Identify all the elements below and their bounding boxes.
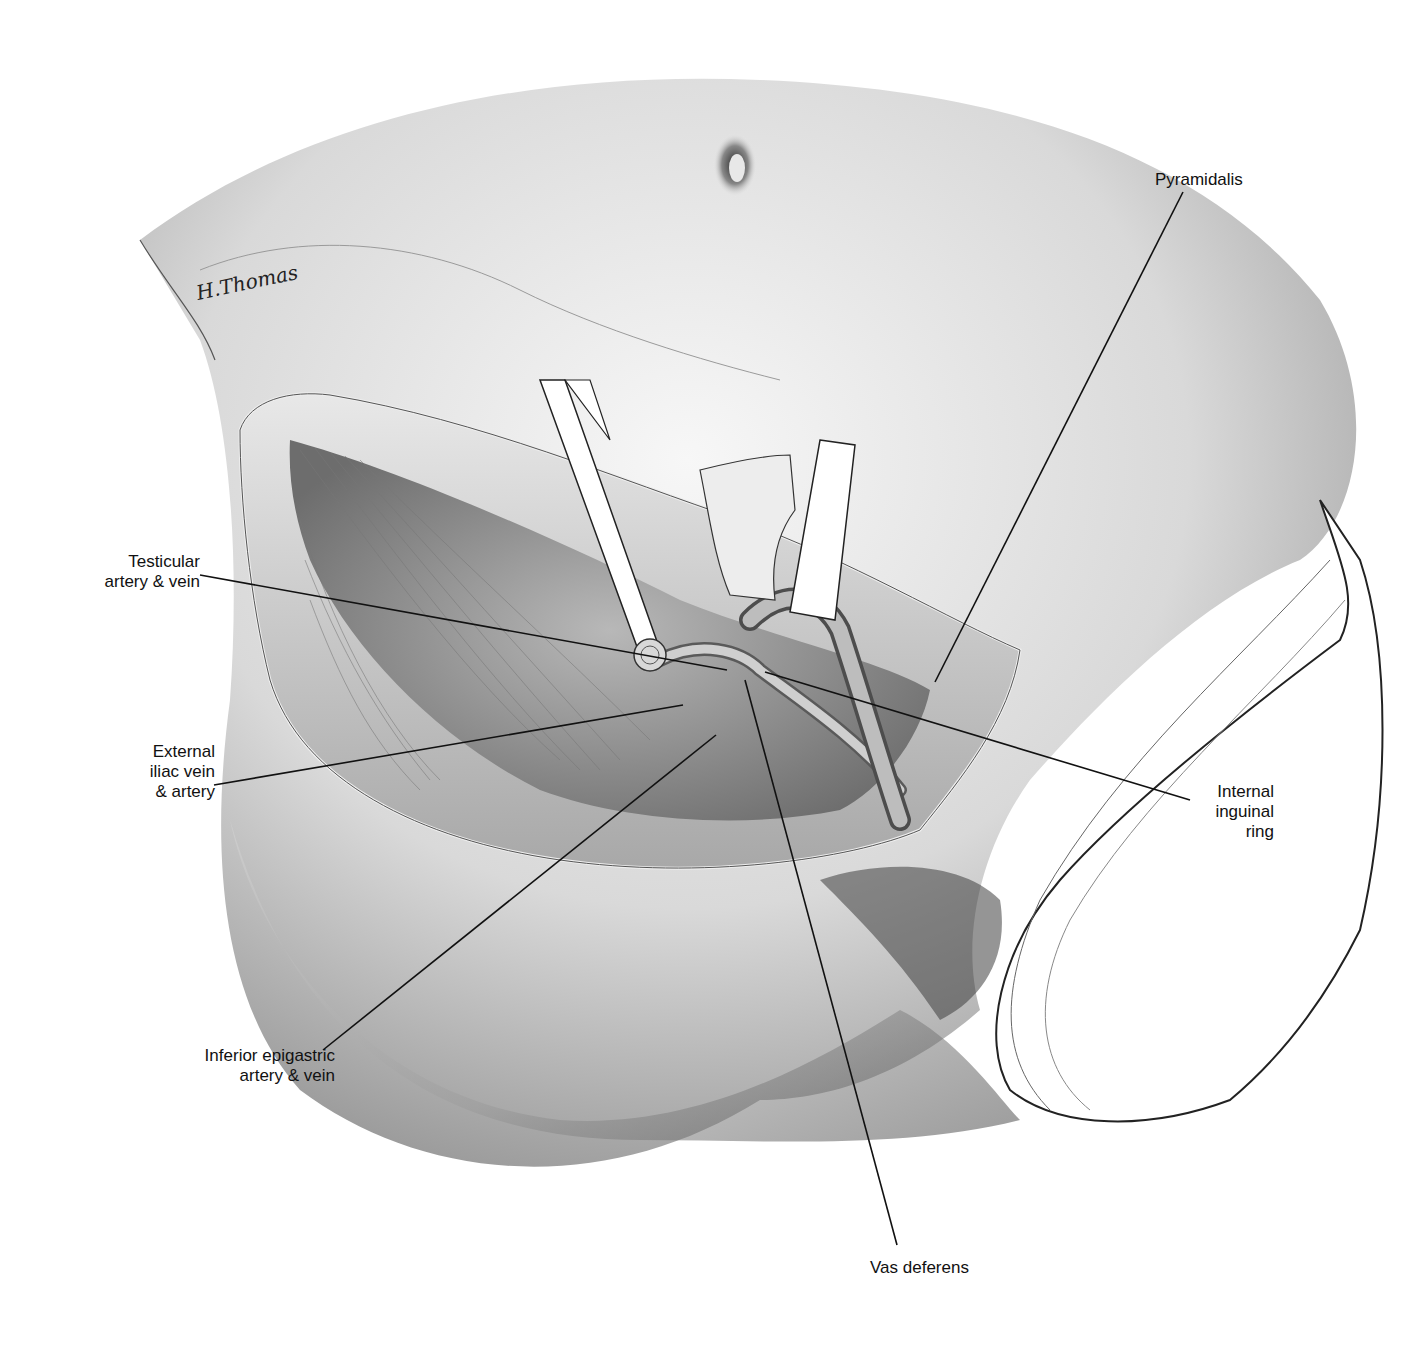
label-pyramidalis: Pyramidalis [1155, 170, 1275, 190]
retractor-ring [634, 639, 666, 671]
surgical-illustration: H.Thomas Testicular artery & vein Extern… [0, 0, 1420, 1350]
label-vas-deferens: Vas deferens [870, 1258, 1000, 1278]
label-testicular-artery-vein: Testicular artery & vein [60, 552, 200, 592]
label-inferior-epigastric-artery-vein: Inferior epigastric artery & vein [150, 1046, 335, 1086]
label-external-iliac-vein-artery: External iliac vein & artery [100, 742, 215, 802]
label-internal-inguinal-ring: Internal inguinal ring [1170, 782, 1274, 842]
illustration-canvas: H.Thomas [0, 0, 1420, 1350]
